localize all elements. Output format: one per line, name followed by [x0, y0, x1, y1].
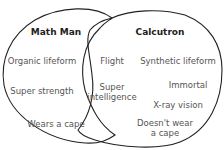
left-item-2: Wears a cape: [27, 119, 84, 129]
right-set-title: Calcutron: [136, 27, 185, 37]
right-item-2: X-ray vision: [153, 100, 203, 110]
left-item-0: Organic lifeform: [8, 56, 77, 66]
right-item-0: Synthetic lifeform: [140, 56, 216, 66]
left-set-title: Math Man: [31, 27, 81, 37]
right-item-1: Immortal: [169, 80, 208, 90]
overlap-item-0: Flight: [100, 56, 124, 66]
right-item-3: Doesn't wear a cape: [135, 118, 195, 138]
left-item-1: Super strength: [10, 86, 73, 96]
overlap-item-1: Super intelligence: [86, 82, 138, 102]
